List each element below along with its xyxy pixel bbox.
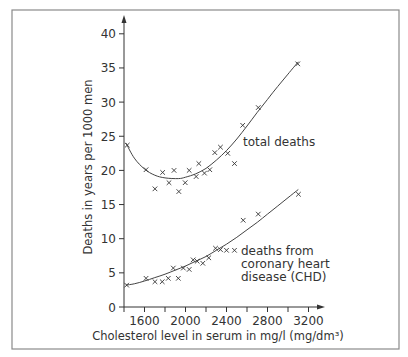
x-axis-label: Cholesterol level in serum in mg/l (mg/d… bbox=[92, 329, 343, 343]
y-tick-label: 40 bbox=[101, 27, 116, 41]
x-marker-icon bbox=[172, 168, 177, 173]
x-marker-icon bbox=[232, 161, 237, 166]
x-marker-icon bbox=[213, 150, 218, 155]
x-marker-icon bbox=[241, 218, 246, 223]
x-marker-icon bbox=[125, 143, 130, 148]
total-deaths-label: total deaths bbox=[243, 135, 315, 149]
y-tick-label: 5 bbox=[108, 266, 116, 280]
y-tick-label: 20 bbox=[101, 164, 116, 178]
y-ticks: 0510152025303540 bbox=[101, 27, 124, 314]
chd-label-line-2: coronary heart bbox=[241, 257, 330, 271]
x-marker-icon bbox=[144, 167, 149, 172]
x-marker-icon bbox=[218, 145, 223, 150]
y-tick-label: 0 bbox=[108, 301, 116, 315]
y-tick-label: 15 bbox=[101, 198, 116, 212]
x-marker-icon bbox=[207, 167, 212, 172]
x-marker-icon bbox=[256, 212, 261, 217]
x-ticks: 16002000240028003200 bbox=[124, 307, 324, 328]
x-marker-icon bbox=[187, 267, 192, 272]
y-axis-label: Deaths in years per 1000 men bbox=[81, 79, 95, 254]
total-deaths-fit-curve bbox=[126, 62, 298, 179]
x-tick-label: 1600 bbox=[129, 314, 160, 328]
x-marker-icon bbox=[153, 279, 158, 284]
x-marker-icon bbox=[144, 276, 149, 281]
chart-frame bbox=[12, 10, 399, 349]
chart-figure: 0510152025303540 16002000240028003200 De… bbox=[0, 0, 408, 357]
x-marker-icon bbox=[225, 151, 230, 156]
y-axis-arrow-icon bbox=[122, 15, 127, 23]
x-marker-icon bbox=[194, 174, 199, 179]
x-marker-icon bbox=[183, 180, 188, 185]
y-tick-label: 25 bbox=[101, 130, 116, 144]
x-marker-icon bbox=[213, 246, 218, 251]
x-tick-label: 2800 bbox=[252, 314, 283, 328]
x-marker-icon bbox=[202, 171, 207, 176]
x-axis-arrow-icon bbox=[317, 305, 325, 310]
y-tick-label: 10 bbox=[101, 232, 116, 246]
x-marker-icon bbox=[187, 168, 192, 173]
x-marker-icon bbox=[296, 192, 301, 197]
x-marker-icon bbox=[232, 248, 237, 253]
x-marker-icon bbox=[191, 258, 196, 263]
x-marker-icon bbox=[201, 261, 206, 266]
x-marker-icon bbox=[167, 180, 172, 185]
x-tick-label: 2000 bbox=[170, 314, 201, 328]
x-marker-icon bbox=[240, 123, 245, 128]
x-tick-label: 2400 bbox=[211, 314, 242, 328]
series-chd-deaths: deaths from coronary heart disease (CHD) bbox=[124, 190, 330, 288]
x-marker-icon bbox=[176, 276, 181, 281]
x-marker-icon bbox=[256, 105, 261, 110]
x-marker-icon bbox=[160, 170, 165, 175]
x-marker-icon bbox=[206, 256, 211, 261]
x-marker-icon bbox=[160, 279, 165, 284]
x-marker-icon bbox=[197, 161, 202, 166]
chd-label-line-1: deaths from bbox=[241, 244, 314, 258]
chd-label-line-3: disease (CHD) bbox=[241, 270, 326, 284]
x-marker-icon bbox=[224, 248, 229, 253]
series-total-deaths: total deaths bbox=[125, 62, 315, 194]
x-tick-label: 3200 bbox=[293, 314, 324, 328]
y-tick-label: 35 bbox=[101, 61, 116, 75]
x-marker-icon bbox=[166, 276, 171, 281]
x-marker-icon bbox=[153, 187, 158, 192]
x-marker-icon bbox=[177, 189, 182, 194]
x-marker-icon bbox=[171, 266, 176, 271]
y-tick-label: 30 bbox=[101, 96, 116, 110]
